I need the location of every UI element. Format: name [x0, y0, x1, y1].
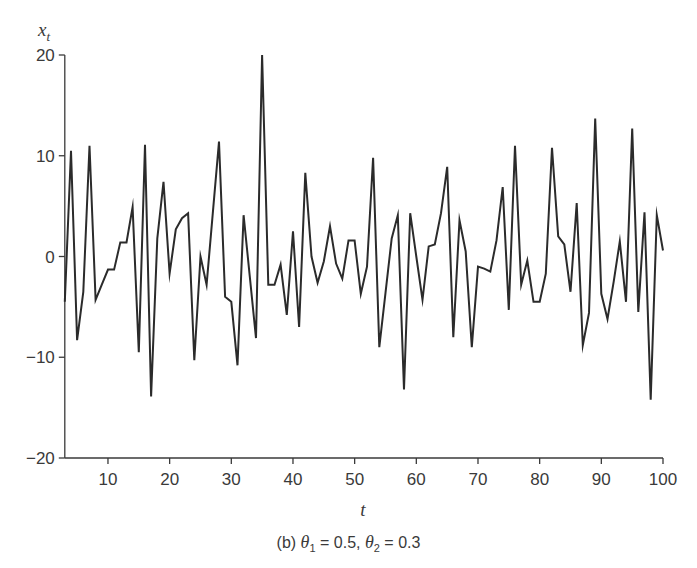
y-axis-title: xt: [37, 19, 50, 44]
x-axis-title: t: [360, 499, 366, 520]
x-tick-label: 50: [345, 470, 364, 489]
x-axis: 102030405060708090100: [65, 458, 677, 489]
caption-prefix: (b): [277, 534, 301, 551]
y-axis: −20−1001020: [26, 46, 65, 468]
y-tick-label: 10: [36, 147, 55, 166]
theta2-symbol: θ: [365, 532, 374, 552]
x-tick-label: 60: [407, 470, 426, 489]
x-tick-label: 90: [592, 470, 611, 489]
y-tick-label: 0: [45, 248, 54, 267]
theta1-value: = 0.5,: [316, 534, 365, 551]
x-tick-label: 30: [222, 470, 241, 489]
x-tick-label: 70: [469, 470, 488, 489]
theta2-value: = 0.3: [380, 534, 420, 551]
time-series-chart: −20−1001020 102030405060708090100 xt t: [0, 0, 697, 568]
y-tick-label: 20: [36, 46, 55, 65]
x-tick-label: 80: [530, 470, 549, 489]
data-line: [65, 55, 663, 400]
x-tick-label: 40: [284, 470, 303, 489]
x-tick-label: 100: [649, 470, 677, 489]
x-tick-label: 10: [99, 470, 118, 489]
y-tick-label: −10: [26, 348, 55, 367]
figure-caption: (b) θ1 = 0.5, θ2 = 0.3: [0, 532, 697, 554]
y-tick-label: −20: [26, 449, 55, 468]
x-tick-label: 20: [160, 470, 179, 489]
